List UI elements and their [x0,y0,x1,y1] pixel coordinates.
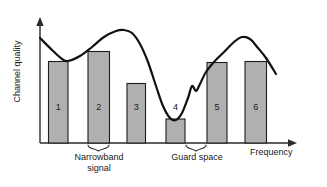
bar-label-3: 3 [134,102,139,112]
narrowband-line-2: signal [87,163,111,173]
guard-space-annotation: Guard space [155,152,239,163]
narrowband-signal-annotation: Narrowbandsignal [56,152,142,174]
x-axis-label: Frequency [250,147,293,158]
bar-label-1: 1 [56,102,61,112]
brace-narrowband-signal [88,145,109,151]
x-axis-arrow-icon [288,139,297,146]
bar-label-4: 4 [173,102,178,112]
y-axis-label: Channel quality [12,27,23,117]
channel-quality-curve [40,30,276,121]
bar-4 [166,119,185,143]
bar-label-5: 5 [214,102,219,112]
bar-label-6: 6 [253,102,258,112]
channel-quality-figure: 123456 Channel quality Frequency Narrowb… [0,0,327,187]
bar-2 [88,52,110,144]
braces-group [88,145,206,151]
y-axis-arrow-icon [36,17,43,26]
brace-guard-space [186,145,206,151]
y-axis [36,17,43,143]
bar-3 [127,84,146,144]
narrowband-line-1: Narrowband [74,152,123,162]
bar-label-2: 2 [96,102,101,112]
bars-group: 123456 [49,52,267,144]
